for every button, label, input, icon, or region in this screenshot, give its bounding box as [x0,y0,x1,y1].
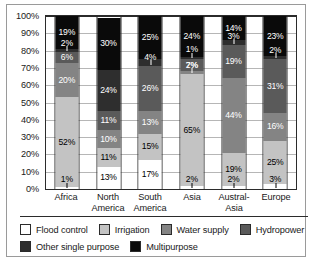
segment-value-label: 24% [100,86,117,95]
legend-swatch [20,241,31,252]
segment-value-label: 26% [142,84,159,93]
legend-swatch [20,224,31,235]
bar-segment: 11% [97,111,120,130]
segment-value-label: 25% [142,33,159,42]
bar-segment: 4% [139,59,162,66]
y-tick-label: 50% [21,98,39,108]
segment-value-label: 30% [100,39,117,48]
y-tick-label: 70% [21,63,39,73]
bar-segment: 30% [97,18,120,70]
stacked-bar[interactable]: 17%15%13%26%4%25% [138,16,163,189]
stacked-bar[interactable]: 13%11%10%11%24%30% [96,16,121,189]
segment-value-label: 2% [268,46,282,55]
segment-value-label: 2% [60,39,74,48]
legend-item[interactable]: Flood control [20,224,88,235]
bar-segment: 11% [97,148,120,167]
segment-value-label: 19% [225,57,242,66]
legend-swatch [99,224,110,235]
legend-label: Other single purpose [36,242,119,252]
segment-value-label: 20% [59,76,76,85]
x-axis-label: Austral-Asia [213,192,255,213]
plot-area: 1%52%20%6%2%19%13%11%10%11%24%30%17%15%1… [45,15,297,190]
legend-swatch [130,241,141,252]
legend-item[interactable]: Irrigation [99,224,150,235]
segment-value-label: 24% [184,32,201,41]
bar-segment: 1% [55,187,78,189]
stacked-bar[interactable]: 3%25%16%31%2%23% [263,16,288,189]
legend-item[interactable]: Hydropower [240,224,305,235]
legend-swatch [161,224,172,235]
bar-group: 1%52%20%6%2%19%13%11%10%11%24%30%17%15%1… [46,16,296,189]
segment-value-label: 4% [143,53,157,62]
chart-frame: 100%90%80%70%60%50%40%30%20%10%0% 1%52%2… [6,4,306,257]
stacked-bar[interactable]: 2%19%44%19%3%14% [221,16,246,189]
segment-value-label: 13% [142,118,159,127]
bar-segment: 13% [97,167,120,189]
segment-value-label: 19% [59,28,76,37]
legend-label: Flood control [36,225,88,235]
y-tick-label: 40% [21,115,39,125]
bar-segment: 19% [222,45,245,78]
segment-value-label: 17% [142,170,159,179]
legend-label: Hydropower [256,225,305,235]
segment-value-label: 2% [227,175,241,184]
segment-value-label: 11% [101,153,117,162]
x-axis-label: SouthAmerica [129,192,171,213]
segment-value-label: 52% [59,138,76,147]
x-axis-label: Asia [171,192,213,213]
segment-value-label: 3% [268,175,282,184]
bar-segment: 20% [55,63,78,98]
segment-value-label: 16% [267,122,284,131]
segment-value-label: 15% [142,142,159,151]
bar-segment: 13% [139,111,162,133]
bar-segment: 17% [139,160,162,189]
segment-value-label: 2% [185,175,199,184]
bar-segment: 2% [264,56,287,59]
bar-segment: 6% [55,52,78,62]
y-tick-label: 60% [21,80,39,90]
y-tick-label: 10% [21,167,39,177]
bar-segment: 2% [180,71,203,74]
y-axis: 100%90%80%70%60%50%40%30%20%10%0% [7,15,43,190]
segment-value-label: 1% [185,45,199,54]
segment-value-label: 65% [184,126,201,135]
legend-item[interactable]: Other single purpose [20,241,119,252]
legend-row-2: Other single purposeMultipurpose [20,238,310,255]
bar-segment: 2% [55,49,78,52]
segment-value-label: 44% [225,111,242,120]
bar-segment: 26% [139,66,162,111]
bar-segment: 2% [180,186,203,189]
y-tick-label: 90% [21,28,39,38]
segment-value-label: 10% [100,135,117,144]
segment-value-label: 19% [225,165,242,174]
legend-label: Irrigation [115,225,150,235]
legend-swatch [240,224,251,235]
y-tick-label: 100% [16,11,39,21]
bar-segment: 24% [97,70,120,112]
segment-value-label: 23% [267,32,284,41]
bar-slot: 2%19%44%19%3%14% [213,16,255,189]
bar-segment: 2% [222,186,245,189]
chart-legend: Flood controlIrrigationWater supplyHydro… [20,221,310,255]
legend-item[interactable]: Multipurpose [130,241,197,252]
bar-segment: 16% [264,113,287,141]
stacked-bar[interactable]: 1%52%20%6%2%19% [54,16,79,189]
legend-label: Multipurpose [146,242,197,252]
y-tick-label: 20% [21,149,39,159]
legend-item[interactable]: Water supply [161,224,229,235]
x-axis-label: Europe [255,192,297,213]
bar-segment: 3% [264,184,287,189]
bar-segment: 65% [180,74,203,185]
bar-segment: 1% [180,57,203,59]
segment-value-label: 25% [267,158,284,167]
segment-value-label: 2% [185,61,199,70]
y-tick-label: 80% [21,46,39,56]
y-tick-label: 0% [26,184,39,194]
legend-label: Water supply [177,225,229,235]
x-axis-labels: AfricaNorthAmericaSouthAmericaAsiaAustra… [45,192,297,213]
stacked-bar[interactable]: 2%65%2%7%1%24% [179,16,204,189]
legend-separator [20,216,308,217]
bar-segment: 44% [222,78,245,153]
bar-segment: 3% [222,40,245,45]
bar-slot: 13%11%10%11%24%30% [88,16,130,189]
